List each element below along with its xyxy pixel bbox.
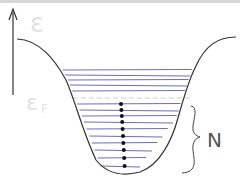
electron-dot (120, 114, 124, 118)
energy-axis-label: ε (30, 8, 44, 38)
electron-count-label: N (207, 128, 222, 152)
energy-level-line (65, 75, 190, 76)
energy-level-line (87, 129, 168, 130)
energy-level-line (77, 104, 180, 105)
potential-well-curve (17, 37, 236, 174)
energy-level-line (72, 91, 185, 92)
electron-dot (122, 148, 126, 152)
energy-level-line (89, 136, 162, 137)
energy-level-line (68, 80, 189, 81)
electron-dot (119, 108, 123, 112)
energy-level-line (63, 70, 192, 71)
energy-level-line (101, 166, 140, 167)
fermi-energy-label: ε (26, 90, 38, 115)
energy-level-line (98, 158, 146, 159)
energy-level-line (82, 116, 177, 117)
electron-dot (121, 134, 125, 138)
electron-dot (123, 164, 127, 168)
electron-dot (121, 141, 125, 145)
electron-dot (120, 120, 124, 124)
energy-level-line (84, 122, 173, 123)
brace (182, 106, 200, 173)
electron-dot (122, 156, 126, 160)
energy-level-line (79, 110, 178, 111)
fermi-energy-subscript: F (41, 102, 48, 116)
electron-dot (119, 102, 123, 106)
electron-dot (121, 127, 125, 131)
potential-well-diagram: ε ε F N (0, 0, 245, 191)
energy-levels (63, 70, 193, 169)
energy-level-line (70, 85, 187, 86)
